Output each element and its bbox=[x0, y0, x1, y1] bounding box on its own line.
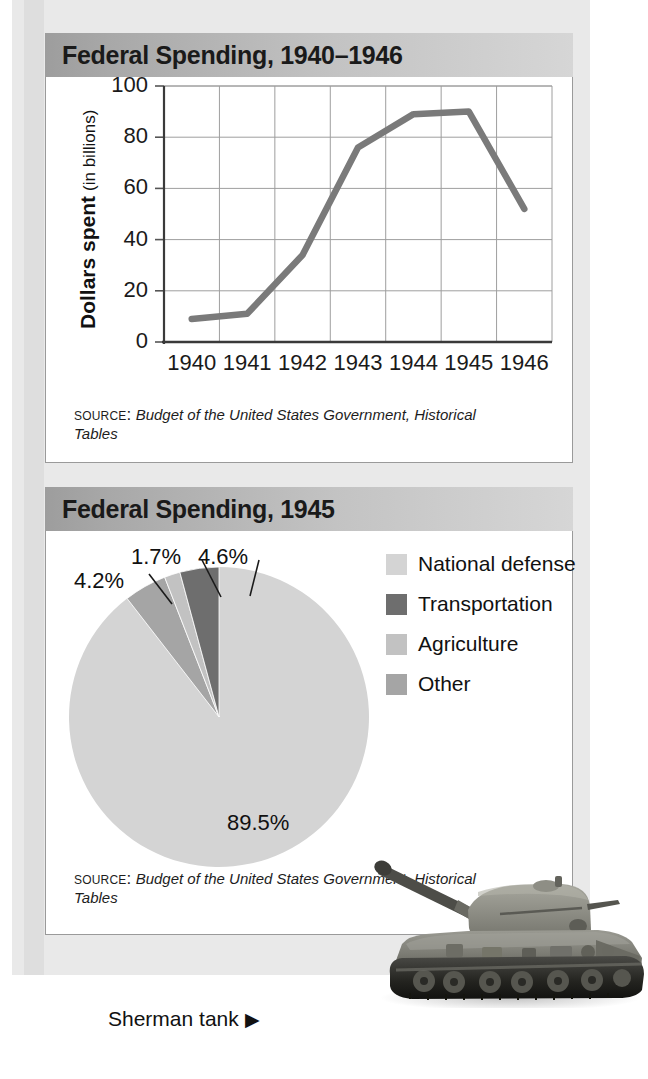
sherman-tank-photo bbox=[350, 848, 648, 1008]
pie-slice-label-other: 4.6% bbox=[198, 544, 248, 570]
line-chart-source-note: Source: Budget of the United States Gove… bbox=[74, 404, 494, 444]
pie-slice-label-agriculture: 1.7% bbox=[131, 544, 181, 570]
tank-caption-text: Sherman tank bbox=[108, 1007, 239, 1030]
x-tick-label: 1941 bbox=[218, 350, 276, 376]
line-chart-panel: Federal Spending, 1940–1946 Dollars spen… bbox=[45, 33, 573, 463]
line-chart-plot-area: Dollars spent(in billions) 020406080100 … bbox=[46, 78, 572, 418]
x-tick-label: 1940 bbox=[163, 350, 221, 376]
pie-chart-title-bar: Federal Spending, 1945 bbox=[45, 487, 573, 531]
x-tick-label: 1943 bbox=[329, 350, 387, 376]
legend-label: Agriculture bbox=[418, 632, 518, 656]
legend-label: Transportation bbox=[418, 592, 553, 616]
right-triangle-icon: ▶ bbox=[245, 1009, 260, 1030]
pie-chart-svg bbox=[54, 552, 384, 882]
legend-swatch-icon bbox=[386, 674, 407, 695]
legend-item: Transportation bbox=[386, 592, 553, 616]
x-tick-label: 1946 bbox=[495, 350, 553, 376]
legend-label: National defense bbox=[418, 552, 576, 576]
source-text: Budget of the United States Government, … bbox=[74, 406, 476, 442]
tank-caption: Sherman tank ▶ bbox=[108, 1007, 260, 1031]
source-label: Source: bbox=[74, 869, 131, 888]
legend-item: National defense bbox=[386, 552, 576, 576]
legend-swatch-icon bbox=[386, 594, 407, 615]
legend-item: Other bbox=[386, 672, 471, 696]
legend-label: Other bbox=[418, 672, 471, 696]
x-tick-label: 1944 bbox=[384, 350, 442, 376]
legend-swatch-icon bbox=[386, 634, 407, 655]
line-chart-svg bbox=[46, 78, 572, 378]
line-chart-title-bar: Federal Spending, 1940–1946 bbox=[45, 33, 573, 77]
line-chart-x-ticks: 1940194119421943194419451946 bbox=[46, 350, 572, 382]
x-tick-label: 1945 bbox=[440, 350, 498, 376]
pie-chart-title: Federal Spending, 1945 bbox=[62, 495, 335, 524]
tank-tracks bbox=[390, 956, 644, 1000]
pie-chart-plot-area: 4.2% 1.7% 4.6% 89.5% National defenseTra… bbox=[46, 532, 572, 892]
legend-item: Agriculture bbox=[386, 632, 518, 656]
source-label: Source: bbox=[74, 405, 131, 424]
pie-slice-label-national-defense: 89.5% bbox=[227, 810, 289, 836]
pie-slice-label-transportation: 4.2% bbox=[74, 568, 124, 594]
legend-swatch-icon bbox=[386, 554, 407, 575]
x-tick-label: 1942 bbox=[274, 350, 332, 376]
line-chart-title: Federal Spending, 1940–1946 bbox=[62, 41, 403, 70]
frame-shade-strip bbox=[24, 0, 44, 975]
